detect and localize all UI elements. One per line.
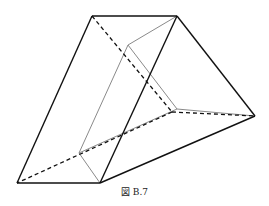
hidden-edges: [17, 16, 255, 183]
inner-edge: [79, 153, 100, 183]
inner-edge: [128, 45, 177, 109]
prism-diagram: [0, 0, 269, 206]
visible-edges: [17, 16, 255, 183]
edge: [177, 16, 255, 116]
hidden-edge: [17, 112, 172, 183]
edge: [17, 16, 92, 183]
edge: [100, 116, 255, 183]
figure-caption: 図 B.7: [0, 185, 269, 198]
inner-edge: [79, 109, 177, 153]
cross-section: [79, 16, 255, 183]
edge: [100, 16, 177, 183]
